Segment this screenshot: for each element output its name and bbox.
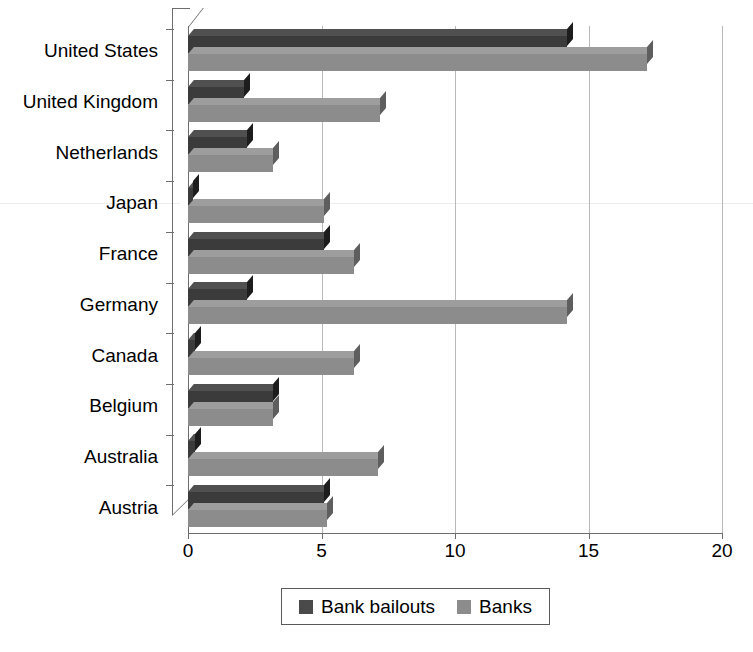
legend-label: Bank bailouts xyxy=(321,597,435,616)
value-axis-tick xyxy=(589,533,590,539)
legend-entry: Banks xyxy=(457,597,532,616)
value-axis-labels: 05101520 xyxy=(0,540,753,568)
value-axis-tick xyxy=(455,533,456,539)
value-axis-tick xyxy=(722,533,723,539)
category-axis-tick xyxy=(166,384,174,385)
value-axis-tick-label: 20 xyxy=(711,540,732,562)
category-axis-tick xyxy=(166,80,174,81)
value-axis-tick xyxy=(322,533,323,539)
category-axis-tick xyxy=(166,333,174,334)
value-axis-tick-label: 0 xyxy=(183,540,194,562)
category-axis-tick xyxy=(166,232,174,233)
bar-chart: United StatesUnited KingdomNetherlandsJa… xyxy=(0,0,753,652)
legend-swatch-banks xyxy=(457,600,471,614)
category-axis-tick xyxy=(166,130,174,131)
legend-swatch-bailouts xyxy=(299,600,313,614)
category-axis-tick xyxy=(166,435,174,436)
value-axis-tick-label: 15 xyxy=(578,540,599,562)
chart-legend: Bank bailoutsBanks xyxy=(281,588,550,625)
category-axis-tick xyxy=(166,283,174,284)
value-axis-tick-label: 5 xyxy=(316,540,327,562)
value-axis-tick-label: 10 xyxy=(444,540,465,562)
category-axis-tick xyxy=(166,29,174,30)
value-axis-tick xyxy=(188,533,189,539)
category-axis-tick xyxy=(166,181,174,182)
legend-entry: Bank bailouts xyxy=(299,597,435,616)
category-axis-tick xyxy=(166,485,174,486)
legend-label: Banks xyxy=(479,597,532,616)
